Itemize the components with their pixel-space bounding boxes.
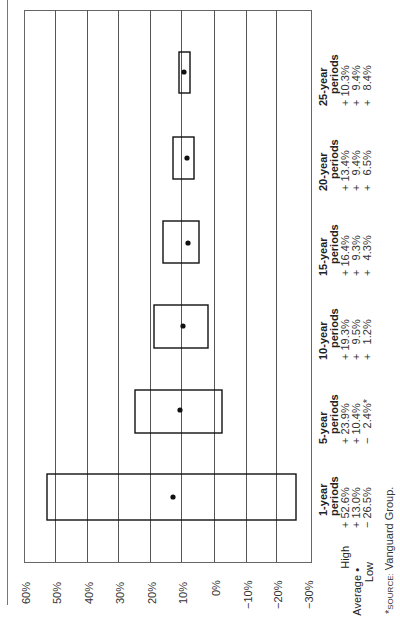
column-5-year: 5-year periods + 23.9% + 10.4% − 2.4%* xyxy=(318,394,373,444)
column-5-year-low: − 2.4%* xyxy=(362,394,373,444)
tick-label-minus20: −20% xyxy=(272,581,284,609)
tick-label-minus10: −10% xyxy=(242,581,254,609)
average-dot-20-year xyxy=(184,155,189,160)
tick-label-40: 40% xyxy=(83,582,95,604)
row-label-low: Low xyxy=(364,562,375,596)
column-10-year: 10-year periods + 19.3% + 9.5% + 1.2% xyxy=(318,308,373,360)
source-footnote: *SOURCE: Vanguard Group. xyxy=(383,487,395,614)
row-label-high: High xyxy=(340,546,351,596)
column-20-year-low: + 6.5% xyxy=(362,139,373,191)
average-dot-15-year xyxy=(185,240,190,245)
average-dot-1-year xyxy=(170,494,175,499)
column-15-year: 15-year periods + 16.4% + 9.3% + 4.3% xyxy=(318,224,373,276)
column-20-year: 20-year periods + 13.4% + 9.4% + 6.5% xyxy=(318,139,373,191)
row-label-average: Average • xyxy=(352,568,363,636)
tick-label-minus30: −30% xyxy=(303,581,315,609)
tick-label-60: 60% xyxy=(20,582,32,604)
tick-label-50: 50% xyxy=(51,582,63,604)
tick-label-30: 30% xyxy=(114,582,126,604)
average-dot-5-year xyxy=(177,407,182,412)
column-1-year-low: − 26.5% xyxy=(362,476,373,528)
column-10-year-low: + 1.2% xyxy=(362,308,373,360)
column-1-year: 1-year periods + 52.6% + 13.0% − 26.5% xyxy=(318,476,373,528)
box-20-year xyxy=(173,137,194,179)
average-dot-10-year xyxy=(180,323,185,328)
tick-label-0: 0% xyxy=(210,580,222,596)
tick-label-20: 20% xyxy=(146,582,158,604)
footnote-star: * xyxy=(383,610,395,614)
column-15-year-low: + 4.3% xyxy=(362,224,373,276)
box-15-year xyxy=(163,221,199,263)
average-dot-25-year xyxy=(181,69,186,74)
column-25-year-low: + 8.4% xyxy=(362,54,373,106)
footnote-source-label: SOURCE: xyxy=(386,573,395,609)
footnote-source-text: Vanguard Group. xyxy=(383,487,395,574)
tick-label-10: 10% xyxy=(177,582,189,604)
column-25-year: 25-year periods + 10.3% + 9.4% + 8.4% xyxy=(318,54,373,106)
